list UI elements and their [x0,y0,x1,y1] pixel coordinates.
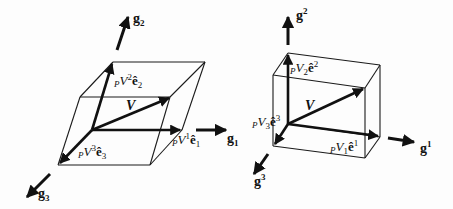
right-v-vector [288,89,363,124]
left-v3-label: PV3ê3 [77,143,107,161]
right-v3-vector [275,124,288,144]
g-sup1-arrow [388,138,414,142]
left-v1-label: PV1ê1 [171,131,200,149]
right-v1-label: PV1ê1 [329,138,358,156]
g-sup1-label: g1 [420,139,432,156]
g-sup2-label: g2 [296,6,308,23]
right-v3-label: PV3ê3 [251,113,281,131]
g-sup3-arrow [254,154,268,174]
g2-label: g2 [133,11,145,28]
diagram-canvas: g2 g1 g3 V PV2ê2 PV1ê1 PV3ê3 g2 g1 g3 V … [0,0,453,209]
g3-label: g3 [38,186,50,203]
left-v2-label: PV2ê2 [113,72,142,90]
g2-arrow [117,17,128,50]
g-sup3-label: g3 [254,172,266,189]
right-v2-label: PV2ê2 [289,59,318,77]
g1-label: g1 [227,131,239,148]
